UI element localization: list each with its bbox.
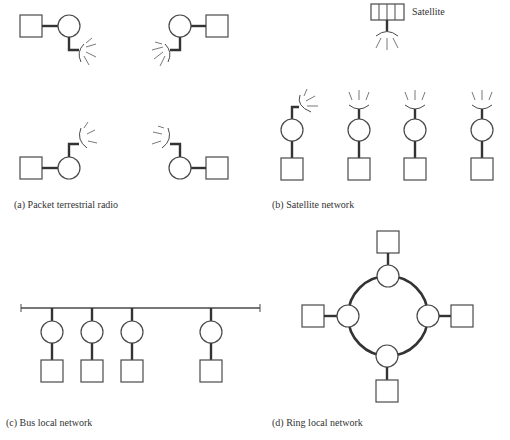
station-a-top-right	[152, 15, 228, 66]
host-box	[348, 158, 370, 180]
station-c-2	[81, 308, 103, 382]
interface-node	[417, 305, 439, 327]
caption-b: (b) Satellite network	[272, 199, 354, 211]
interface-node	[41, 321, 63, 343]
station-b-1	[281, 89, 318, 180]
interface-node	[377, 265, 399, 287]
station-a-bottom-left	[20, 122, 97, 179]
station-b-2	[348, 90, 370, 180]
antenna-icon	[79, 38, 96, 65]
antenna-icon	[152, 126, 170, 148]
host-box	[20, 15, 42, 37]
interface-node	[348, 119, 370, 141]
station-c-3	[121, 308, 143, 382]
host-box	[451, 305, 473, 327]
satellite-icon	[371, 4, 404, 50]
antenna-icon	[79, 122, 97, 148]
interface-node	[471, 119, 493, 141]
host-box	[121, 360, 143, 382]
station-a-bottom-right	[152, 126, 228, 179]
panel-satellite: Satellite	[272, 4, 493, 211]
station-d-left	[302, 305, 359, 327]
interface-node	[376, 345, 398, 367]
host-box	[302, 305, 324, 327]
caption-a: (a) Packet terrestrial radio	[14, 199, 118, 211]
host-box	[206, 15, 228, 37]
antenna-icon	[152, 42, 170, 66]
caption-d: (d) Ring local network	[272, 417, 363, 429]
station-b-4	[471, 90, 493, 180]
panel-packet-radio: (a) Packet terrestrial radio	[14, 15, 228, 211]
interface-node	[169, 157, 191, 179]
antenna-icon	[299, 89, 318, 112]
host-box	[81, 360, 103, 382]
host-box	[206, 157, 228, 179]
interface-node	[404, 119, 426, 141]
panel-ring: (d) Ring local network	[272, 231, 473, 429]
station-c-4	[200, 308, 222, 382]
caption-c: (c) Bus local network	[6, 417, 92, 429]
station-a-top-left	[20, 15, 96, 65]
host-box	[404, 158, 426, 180]
host-box	[376, 380, 398, 402]
interface-node	[200, 321, 222, 343]
host-box	[41, 360, 63, 382]
antenna-icon	[405, 90, 425, 109]
bus-line	[21, 304, 260, 312]
interface-node	[58, 157, 80, 179]
interface-node	[121, 321, 143, 343]
host-box	[20, 157, 42, 179]
interface-node	[281, 119, 303, 141]
host-box	[281, 158, 303, 180]
antenna-icon	[349, 90, 369, 109]
interface-node	[81, 321, 103, 343]
station-d-bottom	[376, 345, 398, 402]
interface-node	[58, 15, 80, 37]
satellite-label: Satellite	[412, 6, 445, 17]
host-box	[200, 360, 222, 382]
station-c-1	[41, 308, 63, 382]
host-box	[471, 158, 493, 180]
station-d-top	[377, 231, 399, 287]
panel-bus: (c) Bus local network	[6, 304, 260, 429]
station-d-right	[417, 305, 473, 327]
interface-node	[169, 15, 191, 37]
ring-line	[348, 276, 428, 356]
network-topologies-figure: (a) Packet terrestrial radio Satellite	[0, 0, 510, 440]
station-b-3	[404, 90, 426, 180]
antenna-icon	[472, 90, 492, 109]
host-box	[377, 231, 399, 253]
interface-node	[337, 305, 359, 327]
